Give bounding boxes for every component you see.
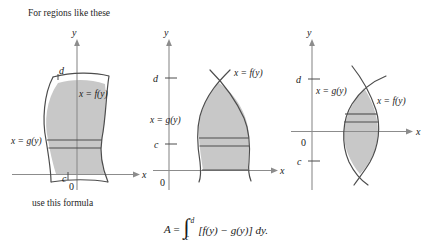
tick-label-c: c bbox=[62, 173, 67, 184]
axis-label-origin: 0 bbox=[160, 177, 165, 188]
curve-label-f: x = f(y) bbox=[376, 96, 406, 107]
integral-upper-limit: d bbox=[190, 216, 194, 225]
area-between-curves-figure: For regions like these bbox=[0, 0, 432, 250]
shaded-region bbox=[199, 83, 249, 170]
integral-group: ∫ d c bbox=[182, 219, 195, 241]
formula-equals: = bbox=[174, 223, 180, 235]
axis-label-origin: 0 bbox=[69, 181, 74, 190]
axis-label-y: y bbox=[163, 27, 169, 38]
curve-label-f: x = f(y) bbox=[78, 89, 108, 100]
formula-integrand: [f(y) − g(y)] dy. bbox=[198, 224, 268, 236]
caption-bottom: use this formula bbox=[32, 198, 93, 208]
x-axis-arrow bbox=[406, 129, 413, 135]
integral-lower-limit: c bbox=[185, 233, 188, 242]
curve-label-g: x = g(y) bbox=[10, 136, 42, 147]
tick-label-c: c bbox=[154, 139, 159, 150]
tick-label-d: d bbox=[296, 74, 302, 85]
x-axis-arrow bbox=[271, 168, 278, 174]
tick-label-d: d bbox=[153, 73, 159, 84]
curve-label-g: x = g(y) bbox=[149, 115, 181, 126]
panel-region-right-of-y-axis: y x 0 d c x = f(y) x = g(y) bbox=[148, 22, 294, 190]
area-formula: A = ∫ d c [f(y) − g(y)] dy. bbox=[0, 219, 432, 241]
y-axis-arrow bbox=[166, 39, 172, 46]
bottom-edge-at-c bbox=[51, 180, 108, 182]
panel-region-straddling-y-axis: y x 0 d c x = f(y) x = g(y) bbox=[6, 22, 152, 190]
axis-label-x: x bbox=[415, 126, 421, 137]
x-axis-arrow bbox=[133, 172, 140, 178]
axis-label-x: x bbox=[279, 165, 285, 176]
y-axis-arrow bbox=[74, 39, 80, 46]
panel-lens-region-crossing-x-axis: y x 0 d c x = g(y) x = f(y) bbox=[286, 22, 432, 190]
axis-label-y: y bbox=[306, 27, 312, 38]
formula-lhs: A bbox=[164, 223, 171, 235]
axis-label-y: y bbox=[71, 27, 77, 38]
curve-label-f: x = f(y) bbox=[233, 68, 263, 79]
axis-label-origin: 0 bbox=[301, 137, 306, 148]
curve-label-g: x = g(y) bbox=[315, 86, 347, 97]
tick-label-c: c bbox=[297, 156, 302, 167]
axis-label-x: x bbox=[141, 169, 147, 180]
y-axis-arrow bbox=[309, 39, 315, 46]
caption-top: For regions like these bbox=[28, 8, 110, 18]
